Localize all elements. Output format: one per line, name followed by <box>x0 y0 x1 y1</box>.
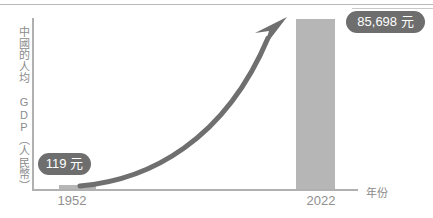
y-axis-title: 中國的人均 GDP（人民幣） <box>6 26 30 192</box>
value-badge-2022: 85,698 元 <box>346 11 425 33</box>
chart-canvas: 中國的人均 GDP（人民幣） 年份 1952 2022 119 元 85,698… <box>0 0 433 218</box>
bar-1952 <box>59 185 96 189</box>
x-axis-title: 年份 <box>366 184 388 200</box>
bar-2022 <box>296 19 335 189</box>
top-divider <box>0 4 433 5</box>
x-axis-line <box>32 189 358 191</box>
y-axis-line <box>32 18 34 191</box>
value-badge-1952: 119 元 <box>38 153 91 175</box>
x-tick-label-2022: 2022 <box>297 193 345 208</box>
x-tick-label-1952: 1952 <box>48 193 96 208</box>
top-divider-secondary <box>352 8 433 9</box>
